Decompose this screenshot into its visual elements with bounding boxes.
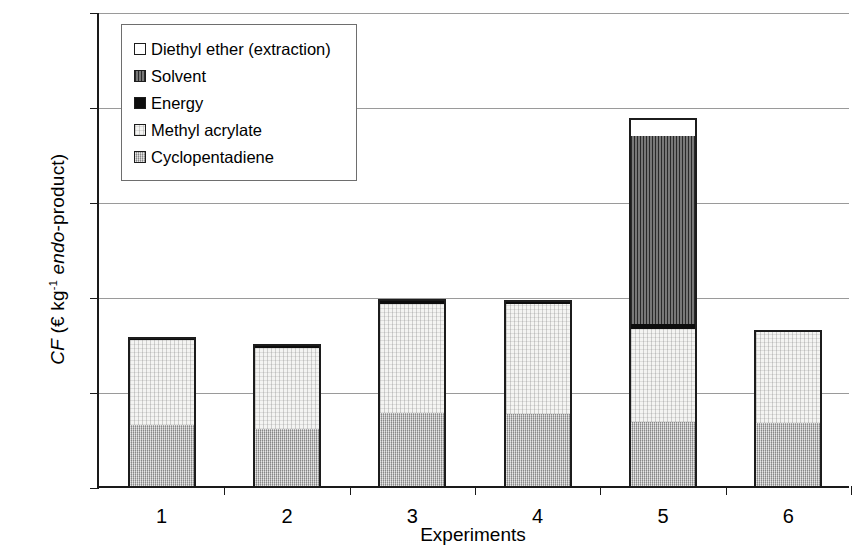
bar-experiment-2 <box>253 344 321 486</box>
bar-experiment-4 <box>504 300 572 486</box>
bar-segment-6-cyclopentadiene <box>754 423 822 486</box>
y-tick-40 <box>90 298 99 299</box>
legend-swatch-icon-0 <box>134 43 146 55</box>
bar-segment-4-cyclopentadiene <box>504 414 572 486</box>
x-tick-3 <box>475 486 476 495</box>
bar-segment-5-methyl-acrylate <box>629 329 697 422</box>
bar-segment-6-methyl-acrylate <box>754 330 822 423</box>
x-tick-2 <box>350 486 351 495</box>
y-axis-title: CF (€ kg-1 endo-product) <box>47 109 69 409</box>
y-axis-title-endo: endo <box>47 231 68 280</box>
y-tick-100 <box>90 13 99 14</box>
legend-swatch-icon-3 <box>134 124 146 136</box>
legend-item-solvent: Solvent <box>134 62 350 89</box>
bar-segment-3-methyl-acrylate <box>378 304 446 413</box>
bar-segment-5-solvent <box>629 136 697 324</box>
x-axis-title: Experiments <box>97 524 849 546</box>
legend-swatch-icon-4 <box>134 151 146 163</box>
y-tick-80 <box>90 108 99 109</box>
legend-label: Methyl acrylate <box>151 122 262 138</box>
y-axis-title-unit: (€ kg <box>47 290 68 339</box>
bar-segment-2-cyclopentadiene <box>253 429 321 486</box>
x-tick-1 <box>224 486 225 495</box>
legend-swatch-icon-1 <box>134 70 146 82</box>
y-tick-60 <box>90 203 99 204</box>
bar-experiment-5 <box>629 118 697 486</box>
bar-segment-1-cyclopentadiene <box>128 425 196 486</box>
bar-segment-5-cyclopentadiene <box>629 422 697 486</box>
gridline-y-20 <box>99 393 849 394</box>
bar-segment-3-cyclopentadiene <box>378 413 446 486</box>
chart-figure: CF (€ kg-1 endo-product) 020406080100123… <box>0 0 867 559</box>
legend-item-energy: Energy <box>134 89 350 116</box>
x-tick-5 <box>726 486 727 495</box>
y-tick-0 <box>90 488 99 489</box>
legend-label: Solvent <box>151 68 206 84</box>
y-tick-20 <box>90 393 99 394</box>
legend-item-methyl-acrylate: Methyl acrylate <box>134 116 350 143</box>
bar-experiment-3 <box>378 299 446 486</box>
gridline-y-100 <box>99 13 849 14</box>
legend-label: Cyclopentadiene <box>151 149 274 165</box>
gridline-y-60 <box>99 203 849 204</box>
x-tick-4 <box>600 486 601 495</box>
bar-segment-1-methyl-acrylate <box>128 340 196 425</box>
gridline-y-40 <box>99 298 849 299</box>
y-axis-title-cf: CF <box>47 339 68 365</box>
bar-segment-4-methyl-acrylate <box>504 304 572 414</box>
bar-segment-5-diethyl-ether-extraction <box>629 118 697 137</box>
bar-segment-2-methyl-acrylate <box>253 348 321 429</box>
legend-item-diethyl-ether-extraction: Diethyl ether (extraction) <box>134 35 350 62</box>
legend-label: Diethyl ether (extraction) <box>151 41 331 57</box>
legend-item-cyclopentadiene: Cyclopentadiene <box>134 143 350 170</box>
y-axis-title-exponent: -1 <box>47 280 59 290</box>
legend-swatch-icon-2 <box>134 97 146 109</box>
bar-experiment-1 <box>128 337 196 486</box>
y-axis-title-product: -product) <box>47 154 68 232</box>
legend: Diethyl ether (extraction)SolventEnergyM… <box>121 24 357 181</box>
x-tick-6 <box>851 486 852 495</box>
legend-label: Energy <box>151 95 203 111</box>
bar-experiment-6 <box>754 330 822 486</box>
